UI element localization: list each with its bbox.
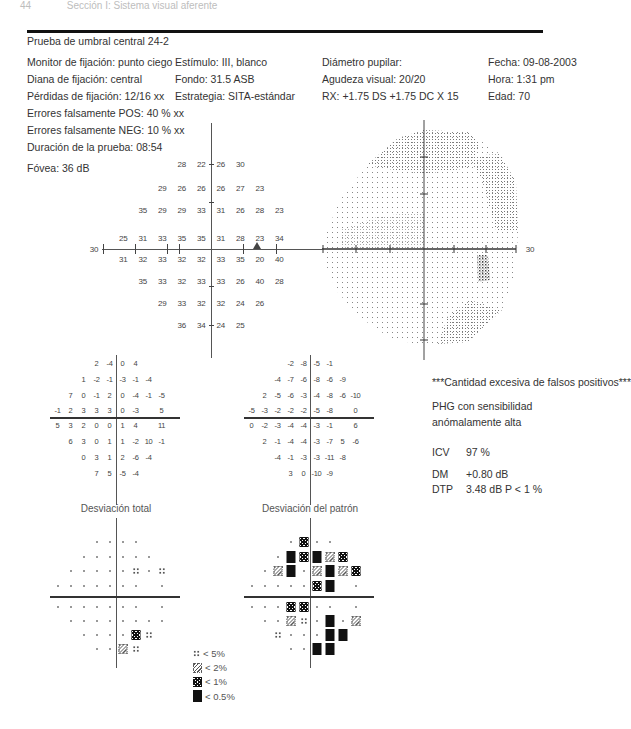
- false-positive-warning: ***Cantidad excesiva de falsos positivos…: [432, 376, 631, 388]
- p05-solid-block-icon: [325, 643, 334, 655]
- normal-dot-icon: [277, 556, 279, 558]
- pattern-deviation-probability-plot: [0, 0, 440, 729]
- normal-dot-icon: [277, 585, 279, 587]
- legend-item: < 2%: [193, 662, 227, 673]
- p05-solid-block-icon: [312, 643, 321, 655]
- p05-solid-block-icon: [325, 565, 334, 577]
- legend-item: < 1%: [193, 676, 227, 687]
- normal-dot-icon: [329, 606, 331, 608]
- psd-value: 3.48 dB P < 1 %: [466, 483, 542, 495]
- normal-dot-icon: [290, 585, 292, 587]
- normal-dot-icon: [264, 570, 266, 572]
- legend-label: < 1%: [205, 676, 227, 687]
- p2-hatch-icon: [312, 566, 321, 576]
- normal-dot-icon: [316, 606, 318, 608]
- vfi-value: 97 %: [466, 446, 490, 458]
- normal-dot-icon: [264, 606, 266, 608]
- md-value: +0.80 dB: [466, 468, 508, 480]
- normal-dot-icon: [303, 585, 305, 587]
- p05-solid-block-icon: [286, 565, 295, 577]
- p1-crosshatch-icon: [299, 537, 308, 547]
- info-column-date: Fecha: 09-08-2003 Hora: 1:31 pm Edad: 70: [488, 54, 577, 105]
- p05-solid-block-icon: [338, 629, 347, 641]
- grayscale-axis-label: 30: [526, 245, 534, 254]
- p05-solid-block-icon: [193, 690, 202, 702]
- normal-dot-icon: [329, 541, 331, 543]
- normal-dot-icon: [277, 606, 279, 608]
- ghd-line1: PHG con sensibilidad: [432, 400, 532, 412]
- p5-stipple-icon: [193, 650, 200, 657]
- p05-solid-block-icon: [325, 629, 334, 641]
- time: Hora: 1:31 pm: [488, 71, 577, 88]
- normal-dot-icon: [251, 585, 253, 587]
- normal-dot-icon: [303, 570, 305, 572]
- normal-dot-icon: [264, 620, 266, 622]
- p05-solid-block-icon: [286, 551, 295, 563]
- p2-hatch-icon: [351, 616, 360, 626]
- normal-dot-icon: [290, 541, 292, 543]
- normal-dot-icon: [290, 634, 292, 636]
- age: Edad: 70: [488, 88, 577, 105]
- p1-crosshatch-icon: [299, 602, 308, 612]
- p2-hatch-icon: [325, 552, 334, 562]
- p2-hatch-icon: [286, 616, 295, 626]
- p2-hatch-icon: [193, 663, 202, 673]
- normal-dot-icon: [316, 634, 318, 636]
- p1-crosshatch-icon: [286, 602, 295, 612]
- ghd-line2: anómalamente alta: [432, 416, 521, 428]
- normal-dot-icon: [303, 648, 305, 650]
- normal-dot-icon: [342, 620, 344, 622]
- normal-dot-icon: [355, 585, 357, 587]
- p1-crosshatch-icon: [193, 677, 202, 687]
- p5-stipple-icon: [300, 618, 307, 625]
- p1-crosshatch-icon: [351, 566, 360, 576]
- legend-item: < 0.5%: [193, 690, 235, 702]
- pd-prob-horizontal-axis: [244, 596, 374, 598]
- normal-dot-icon: [316, 620, 318, 622]
- pd-prob-vertical-axis: [310, 518, 311, 668]
- normal-dot-icon: [355, 606, 357, 608]
- p2-hatch-icon: [338, 566, 347, 576]
- normal-dot-icon: [264, 585, 266, 587]
- legend-label: < 0.5%: [205, 691, 235, 702]
- legend-item: < 5%: [193, 648, 225, 659]
- p05-solid-block-icon: [325, 615, 334, 627]
- normal-dot-icon: [277, 620, 279, 622]
- legend-label: < 2%: [205, 662, 227, 673]
- normal-dot-icon: [251, 606, 253, 608]
- p1-crosshatch-icon: [299, 552, 308, 562]
- p05-solid-block-icon: [312, 551, 321, 563]
- p1-crosshatch-icon: [312, 581, 321, 591]
- normal-dot-icon: [290, 648, 292, 650]
- p1-crosshatch-icon: [338, 552, 347, 562]
- p5-stipple-icon: [274, 632, 281, 639]
- legend-label: < 5%: [203, 648, 225, 659]
- normal-dot-icon: [316, 541, 318, 543]
- p05-solid-block-icon: [325, 580, 334, 592]
- p2-hatch-icon: [273, 566, 282, 576]
- date: Fecha: 09-08-2003: [488, 54, 577, 71]
- normal-dot-icon: [303, 634, 305, 636]
